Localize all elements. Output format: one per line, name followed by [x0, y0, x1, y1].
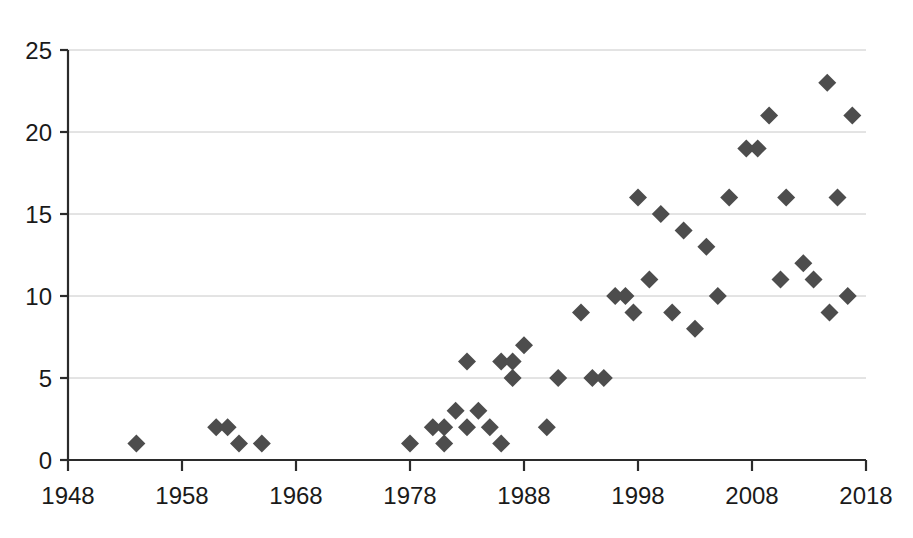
data-point-marker: [616, 287, 634, 305]
data-point-marker: [720, 189, 738, 207]
data-point-marker: [829, 189, 847, 207]
x-axis-ticks: [68, 460, 866, 471]
axis-lines: [68, 50, 866, 460]
data-point-marker: [652, 205, 670, 223]
x-tick-label: 1958: [155, 482, 208, 509]
x-tick-labels: 19481958196819781988199820082018: [41, 482, 892, 509]
data-point-marker: [640, 271, 658, 289]
y-tick-label: 15: [25, 201, 52, 228]
data-point-marker: [839, 287, 857, 305]
data-point-marker: [549, 369, 567, 387]
data-point-marker: [697, 238, 715, 256]
data-point-marker: [686, 320, 704, 338]
plot-area: 19481958196819781988199820082018 0510152…: [0, 0, 913, 538]
x-tick-label: 1988: [497, 482, 550, 509]
data-point-marker: [504, 353, 522, 371]
data-point-marker: [595, 369, 613, 387]
data-point-marker: [469, 402, 487, 420]
data-point-marker: [504, 369, 522, 387]
y-tick-label: 0: [39, 447, 52, 474]
x-tick-label: 1998: [611, 482, 664, 509]
data-point-marker: [772, 271, 790, 289]
data-point-marker: [435, 435, 453, 453]
data-point-marker: [538, 418, 556, 436]
gridlines: [68, 50, 866, 378]
data-point-marker: [760, 107, 778, 125]
data-point-marker: [515, 336, 533, 354]
x-tick-label: 1978: [383, 482, 436, 509]
data-point-marker: [629, 189, 647, 207]
data-point-marker: [624, 303, 642, 321]
y-tick-labels: 0510152025: [25, 37, 52, 474]
scatter-chart: 19481958196819781988199820082018 0510152…: [0, 0, 913, 538]
data-point-marker: [401, 435, 419, 453]
data-point-marker: [230, 435, 248, 453]
data-point-marker: [777, 189, 795, 207]
data-point-marker: [447, 402, 465, 420]
data-point-marker: [749, 139, 767, 157]
x-tick-label: 1968: [269, 482, 322, 509]
data-point-marker: [458, 418, 476, 436]
data-point-marker: [663, 303, 681, 321]
data-point-marker: [843, 107, 861, 125]
data-point-marker: [794, 254, 812, 272]
y-tick-label: 10: [25, 283, 52, 310]
data-points: [127, 74, 861, 453]
data-point-marker: [253, 435, 271, 453]
data-point-marker: [435, 418, 453, 436]
data-point-marker: [805, 271, 823, 289]
x-tick-label: 1948: [41, 482, 94, 509]
y-tick-label: 5: [39, 365, 52, 392]
data-point-marker: [818, 74, 836, 92]
data-point-marker: [675, 221, 693, 239]
data-point-marker: [127, 435, 145, 453]
data-point-marker: [492, 435, 510, 453]
data-point-marker: [709, 287, 727, 305]
x-tick-label: 2008: [725, 482, 778, 509]
y-tick-label: 20: [25, 119, 52, 146]
data-point-marker: [481, 418, 499, 436]
data-point-marker: [219, 418, 237, 436]
data-point-marker: [458, 353, 476, 371]
x-tick-label: 2018: [839, 482, 892, 509]
data-point-marker: [821, 303, 839, 321]
y-tick-label: 25: [25, 37, 52, 64]
y-axis-ticks: [60, 50, 68, 460]
data-point-marker: [572, 303, 590, 321]
